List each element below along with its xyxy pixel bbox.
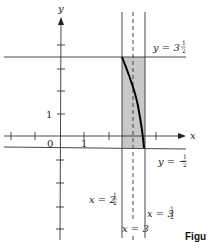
label-x-2-half: x = 2 1 2 (89, 191, 117, 206)
svg-text:2: 2 (170, 213, 174, 220)
origin-label: 0 (47, 138, 53, 149)
label-y-3-half: y = 3 1 2 (152, 39, 186, 54)
svg-text:x = 2: x = 2 (89, 194, 116, 205)
y-axis-arrow-icon (58, 17, 64, 25)
y-axis-label: y (57, 3, 64, 14)
shaded-region (122, 57, 145, 148)
x-tick-label-1: 1 (81, 138, 87, 149)
y-tick-label-1: 1 (46, 109, 52, 120)
svg-text:2: 2 (182, 47, 186, 54)
label-x-3-half: x = 3 1 2 (147, 205, 174, 220)
svg-text:2: 2 (113, 199, 117, 206)
svg-text:1: 1 (182, 39, 186, 46)
diagram-figure: y x 0 1 1 y = 3 1 2 y = − 1 2 x = 2 1 2 … (0, 0, 209, 249)
coordinate-plane: y x 0 1 1 y = 3 1 2 y = − 1 2 x = 2 1 2 … (0, 0, 209, 249)
svg-text:1: 1 (170, 205, 174, 212)
x-axis-arrow-icon (178, 133, 186, 139)
line-y-neg-half (4, 147, 186, 149)
figure-caption: Figu (185, 231, 206, 242)
svg-text:y = 3: y = 3 (152, 42, 180, 53)
label-x-3: x = 3 (122, 223, 149, 234)
label-y-neg-half: y = − 1 2 (157, 153, 187, 168)
svg-text:1: 1 (113, 191, 117, 198)
svg-text:1: 1 (183, 153, 187, 160)
svg-text:2: 2 (183, 161, 187, 168)
x-axis-label: x (190, 130, 196, 141)
